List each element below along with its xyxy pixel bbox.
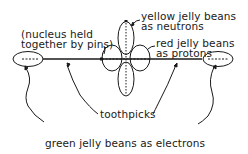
atom-model-diagram — [0, 0, 248, 154]
electrons-label: green jelly beans as electrons — [45, 138, 205, 148]
toothpicks-label: toothpicks — [100, 109, 156, 119]
neutron-bottom — [118, 62, 134, 96]
nucleus-label-line2: together by pins) — [21, 39, 113, 49]
electron-left — [13, 52, 43, 67]
protons-label-line2: as protons — [156, 48, 212, 58]
neutrons-label-line2: as neutrons — [141, 21, 204, 31]
proton-right — [130, 45, 150, 71]
